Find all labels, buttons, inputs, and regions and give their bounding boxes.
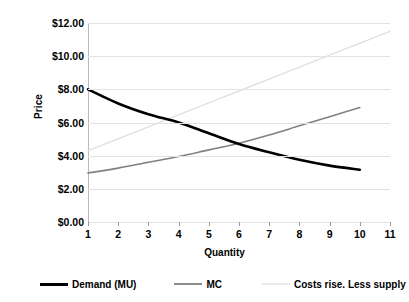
x-axis-tick-mark	[269, 222, 270, 226]
x-axis-tick-mark	[209, 222, 210, 226]
x-axis-tick-label: 11	[384, 228, 395, 240]
legend-item[interactable]: Costs rise. Less supply	[262, 279, 406, 290]
legend-swatch-icon	[262, 283, 290, 285]
legend-swatch-icon	[40, 283, 68, 286]
chart-container: Price $0.00$2.00$4.00$6.00$8.00$10.00$12…	[0, 0, 409, 302]
x-axis-tick-mark	[88, 222, 89, 226]
x-axis-tick-label: 1	[85, 228, 91, 240]
gridline	[88, 156, 390, 157]
legend-label: Costs rise. Less supply	[294, 279, 406, 290]
y-axis-tick-label: $0.00	[28, 216, 84, 228]
chart-legend: Demand (MU)MCCosts rise. Less supply	[0, 274, 409, 294]
x-axis-tick-mark	[179, 222, 180, 226]
gridline	[88, 189, 390, 190]
plot-area	[88, 23, 390, 222]
x-axis-title: Quantity	[0, 247, 409, 258]
x-axis-tick-label: 10	[354, 228, 366, 240]
y-axis-tick-label: $6.00	[28, 117, 84, 129]
gridline	[88, 89, 390, 90]
gridline	[88, 123, 390, 124]
legend-item[interactable]: Demand (MU)	[40, 279, 136, 290]
legend-label: MC	[206, 279, 222, 290]
y-axis-tick-label: $12.00	[28, 17, 84, 29]
series-line	[88, 89, 360, 169]
y-axis-tick-label: $10.00	[28, 50, 84, 62]
x-axis-tick-label: 5	[206, 228, 212, 240]
x-axis-tick-mark	[239, 222, 240, 226]
y-axis-tick-label: $4.00	[28, 150, 84, 162]
x-axis-tick-label: 3	[145, 228, 151, 240]
x-axis-title-text: Quantity	[204, 247, 245, 258]
x-axis-tick-mark	[148, 222, 149, 226]
x-axis-tick-mark	[330, 222, 331, 226]
x-axis-tick-mark	[299, 222, 300, 226]
x-axis-tick-label: 9	[327, 228, 333, 240]
y-axis-tick-label: $8.00	[28, 83, 84, 95]
x-axis-tick-label: 4	[176, 228, 182, 240]
x-axis-tick-label: 7	[266, 228, 272, 240]
y-axis-tick-label: $2.00	[28, 183, 84, 195]
x-axis-tick-label: 6	[236, 228, 242, 240]
gridline	[88, 56, 390, 57]
x-axis-tick-mark	[118, 222, 119, 226]
x-axis-tick-mark	[390, 222, 391, 226]
legend-item[interactable]: MC	[174, 279, 222, 290]
x-axis-tick-mark	[360, 222, 361, 226]
x-axis-tick-label: 2	[115, 228, 121, 240]
x-axis-tick-label: 8	[296, 228, 302, 240]
legend-label: Demand (MU)	[72, 279, 136, 290]
legend-swatch-icon	[174, 283, 202, 285]
series-line	[88, 31, 390, 150]
gridline	[88, 23, 390, 24]
